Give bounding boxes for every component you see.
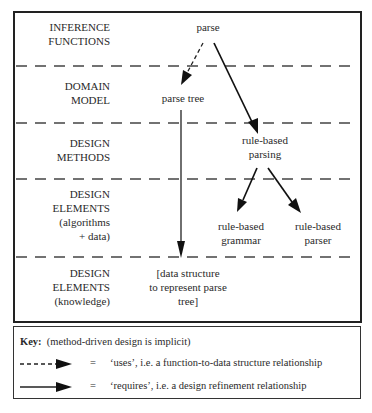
key-requires-equals: = <box>90 380 96 391</box>
node-parse-tree: parse tree <box>148 91 218 105</box>
node-label: parse <box>178 20 238 34</box>
row-label-design-elements-algorithms: DESIGN ELEMENTS (algorithms + data) <box>0 187 110 243</box>
key-header: Key: (method-driven design is implicit) <box>20 336 191 347</box>
key-uses-text: ‘uses’, i.e. a function-to-data structur… <box>110 357 322 368</box>
row-label-line: + data) <box>0 229 110 243</box>
row-label-line: DOMAIN <box>0 79 110 93</box>
row-label-line: METHODS <box>0 150 110 164</box>
node-data-structure: [data structure to represent parse tree] <box>138 266 238 308</box>
node-rule-based-parser: rule-based parser <box>278 219 358 247</box>
key-uses-equals: = <box>90 357 96 368</box>
uses-arrow-parse-to-parse-tree <box>181 43 203 85</box>
row-label-line: (knowledge) <box>0 294 110 308</box>
key-requires-text: ‘requires’, i.e. a design refinement rel… <box>110 380 307 391</box>
node-rule-based-grammar: rule-based grammar <box>201 219 281 247</box>
row-label-line: ELEMENTS <box>0 280 110 294</box>
node-label: parser <box>278 233 358 247</box>
node-label: to represent parse <box>138 280 238 294</box>
node-rule-based-parsing: rule-based parsing <box>225 133 305 161</box>
requires-arrow-parse-to-rule-based-parsing <box>214 43 258 134</box>
node-label: rule-based <box>278 219 358 233</box>
row-label-inference-functions: INFERENCE FUNCTIONS <box>0 20 110 48</box>
requires-arrow-parsing-to-grammar <box>237 168 257 212</box>
row-label-line: DESIGN <box>0 187 110 201</box>
requires-arrow-parsing-to-parser <box>268 168 301 213</box>
row-label-line: DESIGN <box>0 266 110 280</box>
requires-arrow-parse-tree-to-data-structure <box>177 110 185 258</box>
node-label: parse tree <box>148 91 218 105</box>
legend-solid-arrow <box>20 382 72 392</box>
node-label: parsing <box>225 147 305 161</box>
row-label-line: DESIGN <box>0 136 110 150</box>
row-label-line: ELEMENTS <box>0 201 110 215</box>
node-parse: parse <box>178 20 238 34</box>
node-label: rule-based <box>201 219 281 233</box>
row-label-line: INFERENCE <box>0 20 110 34</box>
node-label: rule-based <box>225 133 305 147</box>
row-label-line: MODEL <box>0 93 110 107</box>
node-label: grammar <box>201 233 281 247</box>
node-label: tree] <box>138 294 238 308</box>
row-label-domain-model: DOMAIN MODEL <box>0 79 110 107</box>
row-label-design-elements-knowledge: DESIGN ELEMENTS (knowledge) <box>0 266 110 308</box>
legend-dashed-arrow <box>20 359 72 369</box>
node-label: [data structure <box>138 266 238 280</box>
row-label-design-methods: DESIGN METHODS <box>0 136 110 164</box>
row-label-line: FUNCTIONS <box>0 34 110 48</box>
key-title: Key: <box>20 336 42 347</box>
row-label-line: (algorithms <box>0 215 110 229</box>
key-note: (method-driven design is implicit) <box>47 336 191 347</box>
